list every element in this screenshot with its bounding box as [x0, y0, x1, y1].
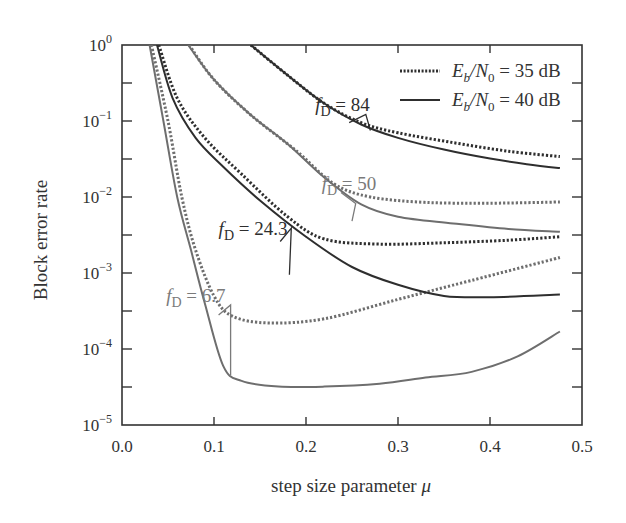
legend-label-solid: Eb/N0 = 40 dB — [451, 89, 561, 114]
y-tick-label: 10−2 — [82, 184, 112, 207]
x-tick-label: 0.5 — [571, 437, 592, 456]
y-tick-label: 10−4 — [82, 336, 112, 359]
legend: Eb/N0 = 35 dBEb/N0 = 40 dB — [400, 60, 561, 114]
y-tick-label: 10−3 — [82, 260, 112, 283]
annotation-label-fd67: fD = 6.7 — [166, 285, 225, 310]
x-tick-label: 0.1 — [203, 437, 224, 456]
legend-label-dotted: Eb/N0 = 35 dB — [451, 60, 561, 85]
y-axis-title: Block error rate — [30, 180, 51, 300]
x-tick-label: 0.2 — [295, 437, 316, 456]
x-axis-title: step size parameter μ — [271, 475, 431, 496]
curve-annotations: fD = 84fD = 50fD = 24.3fD = 6.7 — [166, 94, 376, 375]
y-tick-label: 10−1 — [82, 108, 112, 131]
annotation-pointer — [219, 305, 231, 376]
y-tick-label: 10−5 — [82, 412, 112, 435]
x-tick-label: 0.0 — [111, 437, 132, 456]
x-tick-label: 0.4 — [479, 437, 501, 456]
y-tick-label: 100 — [89, 32, 112, 55]
annotation-label-fd243: fD = 24.3 — [219, 218, 288, 243]
x-tick-label: 0.3 — [387, 437, 408, 456]
chart: 0.00.10.20.30.40.510010−110−210−310−410−… — [0, 0, 626, 523]
annotation-label-fd50: fD = 50 — [322, 173, 377, 198]
